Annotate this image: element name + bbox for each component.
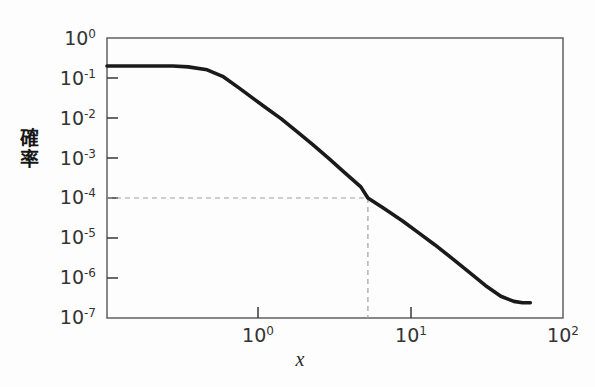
dashed-guide-lines: [107, 198, 368, 318]
axes-frame: [107, 38, 563, 318]
figure-canvas: 確 率 100 10-1 10-2 10-3 10-4 10-5 10-6 10…: [0, 0, 595, 387]
x-tick-marks: [258, 307, 411, 318]
probability-curve: [107, 66, 530, 303]
plot-area: [0, 0, 595, 387]
y-tick-marks: [107, 78, 118, 278]
